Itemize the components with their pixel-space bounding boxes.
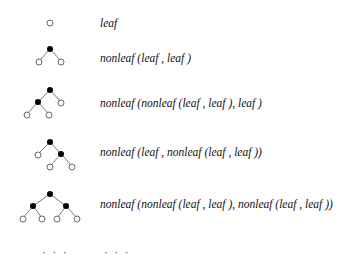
leaf-node [35, 152, 41, 158]
tree-diagrams [0, 0, 349, 255]
leaf-node [36, 59, 42, 65]
leaf-node [39, 216, 45, 222]
nonleaf-node [47, 87, 53, 93]
leaf-node [47, 20, 53, 26]
leaf-node [20, 216, 26, 222]
nonleaf-node [47, 46, 53, 52]
nonleaf-node [58, 151, 64, 157]
leaf-node [74, 216, 80, 222]
term-continuation-ellipsis: · · · [104, 247, 131, 255]
term-nonleaf-3: nonleaf (nonleaf (leaf , leaf ), leaf ) [100, 96, 262, 110]
term-nonleaf-5: nonleaf (nonleaf (leaf , leaf ), nonleaf… [100, 197, 333, 211]
leaf-node [24, 112, 30, 118]
leaf-node [47, 164, 53, 170]
term-nonleaf-4: nonleaf (leaf , nonleaf (leaf , leaf )) [100, 145, 262, 159]
term-nonleaf-2: nonleaf (leaf , leaf ) [100, 51, 191, 65]
leaf-node [58, 59, 64, 65]
nonleaf-node [47, 191, 53, 197]
nonleaf-node [47, 139, 53, 145]
term-leaf: leaf [100, 16, 117, 30]
nonleaf-node [63, 203, 69, 209]
leaf-node [54, 216, 60, 222]
leaf-node [58, 100, 64, 106]
nonleaf-node [35, 99, 41, 105]
leaf-node [69, 164, 75, 170]
leaf-node [46, 112, 52, 118]
nonleaf-node [30, 203, 36, 209]
tree-continuation-ellipsis: · · · [42, 247, 69, 255]
